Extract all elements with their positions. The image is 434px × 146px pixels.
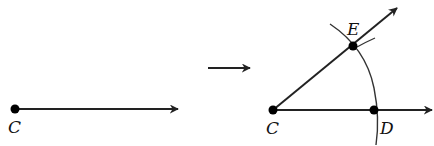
ray-ce xyxy=(273,8,397,110)
point-d xyxy=(370,106,379,115)
label-d: D xyxy=(379,118,394,138)
label-e: E xyxy=(346,19,360,39)
label-c-right: C xyxy=(266,118,279,138)
point-c-right xyxy=(269,106,278,115)
point-e xyxy=(349,42,358,51)
point-c-left xyxy=(11,105,20,114)
initial-ray: C xyxy=(8,105,178,138)
constructed-angle: C D E xyxy=(266,8,432,145)
construction-diagram: C C D E xyxy=(0,0,434,146)
label-c-left: C xyxy=(8,117,21,137)
